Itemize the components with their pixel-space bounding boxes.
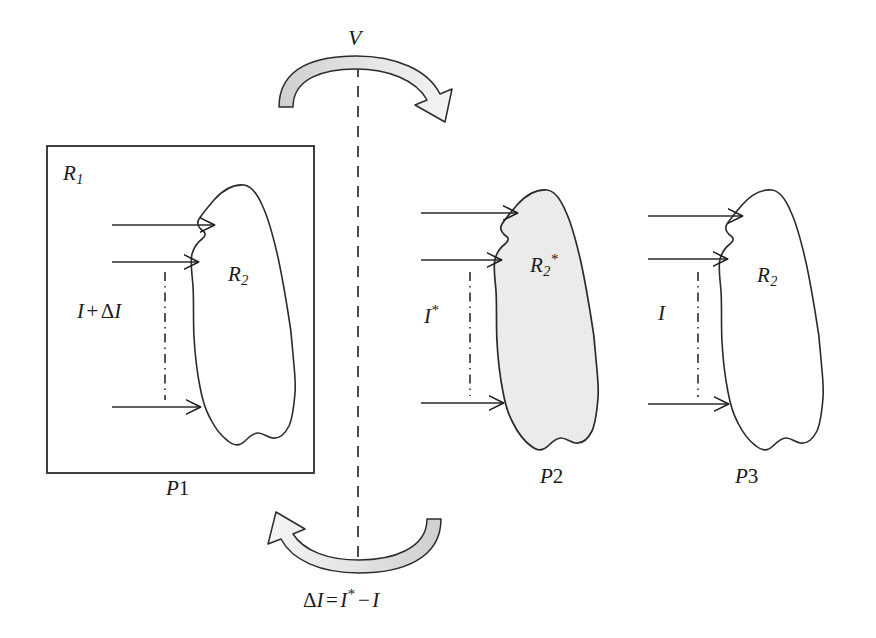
flux-p2-star: * bbox=[432, 302, 440, 318]
flux-label-p3: I bbox=[658, 303, 665, 324]
region-r2-subscript-p1: 2 bbox=[241, 272, 248, 288]
rotation-axis-label-v: V bbox=[348, 27, 361, 49]
flux-p1-delta: Δ bbox=[101, 299, 115, 323]
region-r1-letter: R bbox=[63, 161, 76, 185]
equation-equals: = bbox=[324, 588, 341, 612]
region-r2-star-blob-p2 bbox=[494, 190, 598, 450]
region-r2-star-superscript-p2: * bbox=[551, 251, 559, 267]
flux-p1-operator: + bbox=[84, 299, 101, 323]
rotation-equation-label: ΔI=I*−I bbox=[303, 587, 379, 611]
panel-label-p1-letter: P bbox=[166, 476, 179, 500]
curved-arrow-clockwise-icon bbox=[279, 56, 452, 122]
region-r2-star-subscript-p2: 2 bbox=[543, 263, 550, 279]
region-r2-subscript-p3: 2 bbox=[770, 273, 777, 289]
region-r2-label-p1: R2 bbox=[228, 264, 248, 287]
flux-p3-var1: I bbox=[658, 301, 665, 325]
panel-label-p1-number: 1 bbox=[179, 476, 190, 500]
flux-p1-var2: I bbox=[114, 299, 121, 323]
region-r2-label-p3: R2 bbox=[757, 265, 777, 288]
equation-rhs-var: I bbox=[340, 588, 347, 612]
curved-arrow-counterclockwise-icon bbox=[268, 512, 441, 573]
region-r2-blob-p3 bbox=[719, 190, 823, 450]
region-r2-letter-p1: R bbox=[228, 262, 241, 286]
panel-label-p1: P1 bbox=[166, 478, 189, 499]
panel-label-p3-number: 3 bbox=[748, 464, 759, 488]
equation-delta: Δ bbox=[303, 588, 317, 612]
panel-label-p3-letter: P bbox=[735, 464, 748, 488]
region-r1-subscript: 1 bbox=[76, 171, 83, 187]
panel-label-p3: P3 bbox=[735, 466, 758, 487]
figure-root: V ΔI=I*−I R1 R2 I+ΔI P1 R2* I* P2 R2 I P… bbox=[0, 0, 876, 638]
panel-label-p2: P2 bbox=[540, 466, 563, 487]
panel-label-p2-letter: P bbox=[540, 464, 553, 488]
panel-p2 bbox=[421, 190, 598, 450]
equation-minus: − bbox=[355, 588, 372, 612]
panel-label-p2-number: 2 bbox=[553, 464, 564, 488]
flux-label-p1: I+ΔI bbox=[77, 301, 121, 322]
panel-p3 bbox=[648, 190, 823, 450]
equation-rhs-var2: I bbox=[372, 588, 379, 612]
region-r2-blob-p1 bbox=[191, 185, 295, 445]
region-r2-star-label-p2: R2* bbox=[530, 252, 559, 278]
region-r1-label: R1 bbox=[63, 163, 83, 186]
flux-p2-var1: I bbox=[424, 304, 431, 328]
equation-lhs-var: I bbox=[317, 588, 324, 612]
region-r2-star-letter-p2: R bbox=[530, 253, 543, 277]
flux-label-p2: I* bbox=[424, 303, 439, 327]
region-r2-letter-p3: R bbox=[757, 263, 770, 287]
flux-p1-var1: I bbox=[77, 299, 84, 323]
